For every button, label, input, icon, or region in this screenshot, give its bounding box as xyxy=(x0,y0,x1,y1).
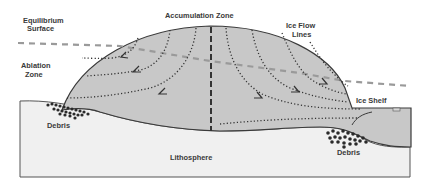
ice-shelf-marker xyxy=(393,108,400,111)
ice-sheet-diagram: Equilibrium Surface Accumulation Zone Ic… xyxy=(0,0,422,187)
label-debris-right: Debris xyxy=(337,148,360,157)
label-ice-flow-lines-2: Lines xyxy=(292,30,311,39)
label-ablation-zone-1: Ablation xyxy=(21,61,51,70)
label-ablation-zone-2: Zone xyxy=(25,70,43,79)
label-debris-left: Debris xyxy=(47,121,70,130)
label-accumulation-zone: Accumulation Zone xyxy=(165,11,234,20)
label-lithosphere: Lithosphere xyxy=(170,153,212,162)
label-ice-shelf: Ice Shelf xyxy=(356,96,387,105)
label-equilibrium-surface-2: Surface xyxy=(27,24,54,33)
label-ice-flow-lines-1: Ice Flow xyxy=(286,21,315,30)
